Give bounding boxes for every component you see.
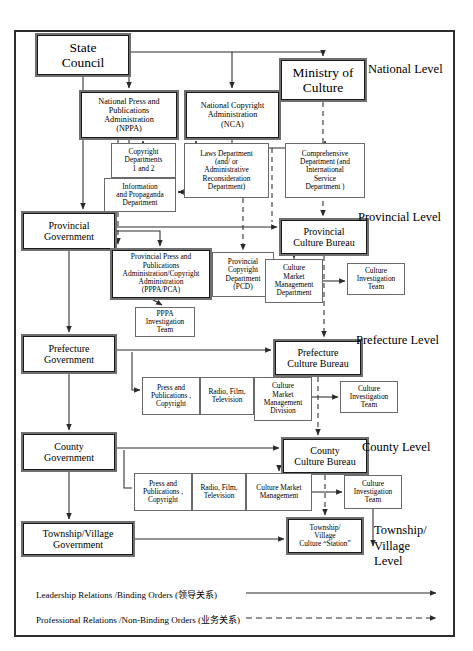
node-county-press-publications-copyright[interactable]: Press and Publications , Copyright	[134, 473, 192, 511]
node-state-council-label: State Council	[60, 40, 107, 70]
node-township-village-culture-station[interactable]: Township/ Village Culture “Station”	[286, 517, 364, 555]
node-nca[interactable]: National Copyright Administration (NCA)	[184, 90, 281, 140]
node-provincial-culture-bureau-label: Provincial Culture Bureau	[291, 226, 356, 248]
node-prefecture-culture-investigation-team[interactable]: Culture Investigation Team	[340, 381, 398, 413]
node-township-village-government-label: Township/Village Government	[41, 528, 116, 550]
node-prefecture-culture-bureau[interactable]: Prefecture Culture Bureau	[273, 339, 363, 377]
node-provincial-culture-bureau[interactable]: Provincial Culture Bureau	[279, 218, 369, 256]
node-township-village-culture-station-label: Township/ Village Culture “Station”	[297, 524, 353, 549]
level-label-county: County Level	[362, 440, 430, 456]
node-provincial-cit-label: Culture Investigation Team	[355, 267, 398, 292]
level-label-prefecture: Prefecture Level	[356, 333, 439, 349]
node-prefecture-culture-bureau-label: Prefecture Culture Bureau	[285, 347, 350, 369]
node-county-radio-film-television[interactable]: Radio, Film, Television	[192, 473, 246, 511]
node-comprehensive-department[interactable]: Comprehensive Department (and Internatio…	[285, 143, 365, 198]
level-label-provincial: Provincial Level	[358, 210, 441, 226]
node-prefecture-cit-label: Culture Investigation Team	[348, 385, 391, 410]
level-label-national: National Level	[368, 62, 443, 78]
node-ministry-of-culture-label: Ministry of Culture	[290, 65, 355, 95]
node-laws-department-label: Laws Department (and/ or Administrative …	[198, 150, 255, 191]
node-township-village-government[interactable]: Township/Village Government	[21, 521, 135, 557]
node-state-council[interactable]: State Council	[35, 33, 131, 77]
node-prefecture-cmmd-label: Culture Market Management Division	[262, 382, 305, 415]
node-county-culture-investigation-team[interactable]: Culture Investigation Team	[344, 475, 402, 509]
node-provincial-government[interactable]: Provincial Government	[21, 211, 117, 251]
node-laws-department[interactable]: Laws Department (and/ or Administrative …	[184, 143, 269, 198]
node-county-cit-label: Culture Investigation Team	[352, 480, 395, 505]
level-label-township: Township/ Village Level	[374, 523, 427, 570]
node-pppa-investigation-team[interactable]: PPPA Investigation Team	[135, 307, 195, 337]
node-pppa-pca-label: Provincial Press and Publications Admini…	[121, 253, 202, 294]
node-nppa[interactable]: National Press and Publications Administ…	[79, 90, 179, 140]
node-county-government[interactable]: County Government	[21, 432, 117, 472]
diagram-canvas: State Council National Press and Publica…	[0, 0, 473, 651]
node-county-cmm-label: Culture Market Management	[254, 484, 303, 501]
node-pppa-investigation-team-label: PPPA Investigation Team	[144, 310, 187, 335]
node-prefecture-radio-film-television[interactable]: Radio, Film, Television	[200, 377, 254, 415]
node-county-culture-bureau[interactable]: County Culture Bureau	[281, 437, 369, 475]
node-prefecture-radio-label: Radio, Film, Television	[206, 388, 247, 405]
node-county-culture-market-management[interactable]: Culture Market Management	[246, 473, 312, 511]
node-prefecture-press-label: Press and Publications , Copyright	[149, 384, 193, 409]
node-prefecture-press-publications-copyright[interactable]: Press and Publications , Copyright	[142, 377, 200, 415]
node-information-propaganda-department[interactable]: Information and Propaganda Department	[104, 178, 176, 212]
node-county-culture-bureau-label: County Culture Bureau	[292, 445, 357, 467]
node-prefecture-culture-market-management-division[interactable]: Culture Market Management Division	[254, 377, 312, 421]
node-nca-label: National Copyright Administration (NCA)	[199, 101, 266, 129]
node-information-propaganda-department-label: Information and Propaganda Department	[114, 183, 165, 208]
node-nppa-label: National Press and Publications Administ…	[96, 97, 161, 134]
node-provincial-copyright-department-label: Provincial Copyright Department (PCD)	[224, 258, 263, 291]
node-provincial-culture-investigation-team[interactable]: Culture Investigation Team	[347, 263, 405, 295]
node-copyright-departments[interactable]: Copyright Departments 1 and 2	[111, 143, 176, 178]
node-county-press-label: Press and Publications , Copyright	[141, 480, 185, 505]
node-provincial-government-label: Provincial Government	[42, 220, 96, 242]
node-pppa-pca[interactable]: Provincial Press and Publications Admini…	[110, 248, 212, 300]
node-prefecture-government[interactable]: Prefecture Government	[21, 334, 117, 374]
legend-professional-label: Professional Relations /Non-Binding Orde…	[36, 613, 240, 626]
node-ministry-of-culture[interactable]: Ministry of Culture	[279, 58, 367, 102]
node-prefecture-government-label: Prefecture Government	[42, 343, 96, 365]
node-provincial-culture-market-management-department[interactable]: Culture Market Management Department	[265, 259, 323, 303]
legend-leadership-label: Leadership Relations /Binding Orders (领导…	[36, 588, 217, 601]
node-copyright-departments-label: Copyright Departments 1 and 2	[123, 148, 165, 173]
node-county-government-label: County Government	[42, 441, 96, 463]
node-provincial-cmmd-label: Culture Market Management Department	[273, 264, 316, 297]
node-comprehensive-department-label: Comprehensive Department (and Internatio…	[298, 150, 352, 191]
node-county-radio-label: Radio, Film, Television	[198, 484, 239, 501]
